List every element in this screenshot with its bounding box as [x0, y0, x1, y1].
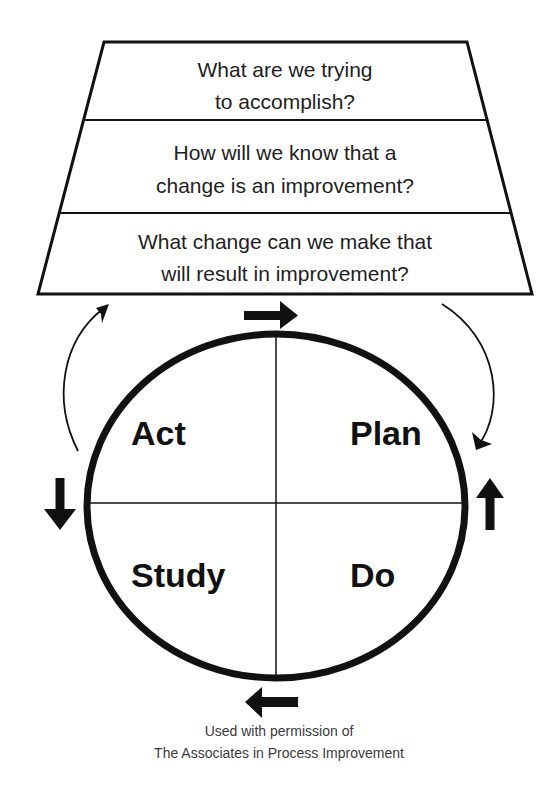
- questions-trapezoid: What are we trying to accomplish? How wi…: [38, 42, 532, 294]
- model-for-improvement-diagram: What are we trying to accomplish? How wi…: [0, 0, 558, 792]
- up-arrow-icon: [476, 478, 504, 530]
- curved-arrow-up-icon: [64, 304, 109, 451]
- question-1-line-2: to accomplish?: [215, 90, 355, 113]
- question-3-line-1: What change can we make that: [138, 230, 432, 253]
- phase-plan: Plan: [350, 414, 422, 452]
- phase-study: Study: [131, 556, 226, 594]
- pdsa-cycle: Act Plan Study Do: [87, 334, 465, 678]
- curved-arrow-down-icon: [442, 304, 494, 450]
- question-2-line-1: How will we know that a: [174, 141, 397, 164]
- right-arrow-icon: [244, 301, 298, 329]
- footnote-line-1: Used with permission of: [205, 723, 354, 739]
- footnote-line-2: The Associates in Process Improvement: [154, 745, 404, 761]
- phase-act: Act: [131, 414, 186, 452]
- question-1-line-1: What are we trying: [197, 58, 372, 81]
- down-arrow-icon: [44, 478, 76, 530]
- question-2-line-2: change is an improvement?: [156, 174, 414, 197]
- question-3-line-2: will result in improvement?: [160, 262, 408, 285]
- phase-do: Do: [350, 556, 395, 594]
- left-arrow-icon: [245, 687, 298, 718]
